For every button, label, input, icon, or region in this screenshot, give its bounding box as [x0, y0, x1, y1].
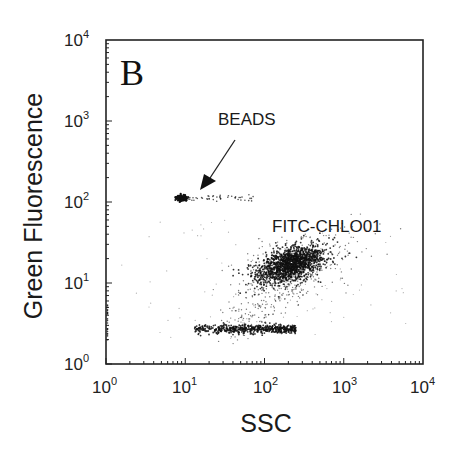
y-axis-title: Green Fluorescence [19, 93, 47, 320]
y-tick-label-1: 101 [64, 271, 89, 293]
y-axis-tick-labels: 100 101 102 103 104 [64, 28, 89, 374]
x-axis-title: SSC [240, 409, 291, 437]
scatter-chart: 100 101 102 103 104 100 101 102 103 104 … [0, 0, 458, 461]
fitc-chlo01-annotation: FITC-CHLO01 [272, 217, 382, 236]
beads-annotation: BEADS [218, 110, 276, 129]
x-tick-label-4: 104 [410, 375, 435, 397]
x-axis-tick-labels: 100 101 102 103 104 [92, 375, 435, 397]
x-tick-label-3: 103 [332, 375, 357, 397]
y-tick-label-4: 104 [64, 28, 89, 50]
beads-arrow-line [210, 140, 235, 178]
y-tick-label-3: 103 [64, 109, 89, 131]
panel-label: B [120, 53, 144, 93]
y-tick-label-0: 100 [64, 352, 89, 374]
minor-ticks [106, 44, 419, 364]
y-tick-label-2: 102 [64, 190, 89, 212]
x-tick-label-0: 100 [92, 375, 117, 397]
data-points [107, 193, 407, 345]
x-tick-label-1: 101 [172, 375, 197, 397]
x-tick-label-2: 102 [253, 375, 278, 397]
beads-arrow-head [200, 174, 216, 190]
